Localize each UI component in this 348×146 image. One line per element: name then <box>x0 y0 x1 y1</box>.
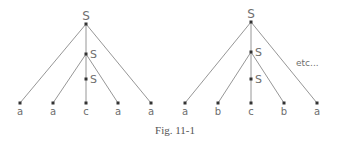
leaf-label: c <box>83 106 89 117</box>
leaf-label: a <box>17 106 23 117</box>
tree-edge <box>53 54 86 103</box>
tree-node <box>52 102 55 105</box>
tree-node <box>184 102 187 105</box>
tree-node <box>85 78 88 81</box>
inner-node-label: S <box>90 48 97 61</box>
tree-node <box>316 102 319 105</box>
figure: SSSaacaaSSSabcba etc... Fig. 11-1 <box>0 0 348 146</box>
tree-node <box>250 78 253 81</box>
tree-node <box>117 102 120 105</box>
leaf-label: a <box>314 106 320 117</box>
tree-node <box>19 102 22 105</box>
inner-node-label: S <box>255 73 262 86</box>
leaf-label: a <box>182 106 188 117</box>
tree-edge <box>185 22 251 103</box>
inner-node-label: S <box>255 46 262 59</box>
leaf-label: b <box>281 106 287 117</box>
tree-node <box>150 102 153 105</box>
leaf-label: a <box>115 106 121 117</box>
leaf-label: c <box>248 106 254 117</box>
tree-node <box>283 102 286 105</box>
root-label: S <box>247 7 255 21</box>
tree-edge <box>251 22 317 103</box>
leaf-label: a <box>50 106 56 117</box>
tree-node <box>250 51 253 54</box>
tree-node <box>85 53 88 56</box>
leaf-label: a <box>148 106 154 117</box>
tree-node <box>217 102 220 105</box>
tree-edge <box>86 24 151 103</box>
tree-edge <box>20 24 86 103</box>
parse-trees-diagram: SSSaacaaSSSabcba <box>0 0 348 146</box>
tree-node <box>85 102 88 105</box>
tree-node <box>250 102 253 105</box>
inner-node-label: S <box>90 73 97 86</box>
leaf-label: b <box>215 106 221 117</box>
root-label: S <box>82 9 90 23</box>
tree-edge <box>218 52 251 103</box>
